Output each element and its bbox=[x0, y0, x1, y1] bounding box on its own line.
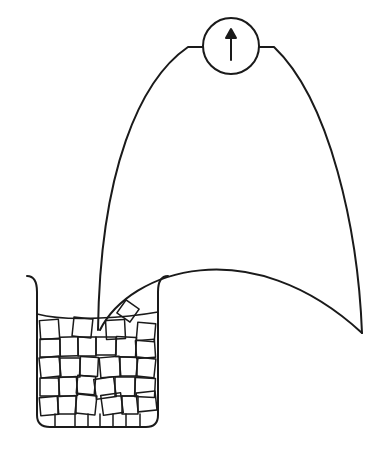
diagram-canvas: Meter connected by two wires forming a l… bbox=[0, 0, 375, 455]
right-wire bbox=[259, 47, 362, 333]
meter bbox=[203, 18, 259, 74]
thermocouple-diagram bbox=[0, 0, 375, 455]
arrow-up-icon bbox=[226, 29, 236, 60]
left-wire bbox=[98, 47, 203, 330]
beaker bbox=[27, 276, 168, 427]
junction-wire bbox=[100, 270, 362, 333]
